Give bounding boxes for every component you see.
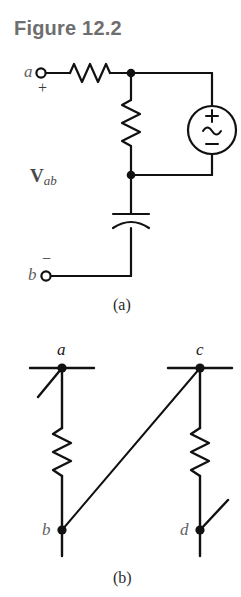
terminal-b-label: b	[28, 266, 37, 283]
terminal-a-label: a	[24, 63, 33, 80]
node-a-switch-arm	[38, 368, 62, 397]
wire-c-to-b	[62, 368, 200, 530]
terminal-b-polarity: −	[42, 251, 51, 267]
circuit-a-group	[36, 64, 236, 281]
shunt-resistor-symbol	[122, 100, 140, 146]
node-a-dot	[57, 363, 66, 372]
circuit-b-group	[30, 363, 232, 556]
node-b-label: b	[42, 521, 51, 538]
node-a-label: a	[57, 341, 66, 358]
voltage-label-vab: Vab	[30, 165, 57, 189]
node-c-label: c	[196, 341, 204, 358]
junction-dot-mid	[127, 171, 136, 180]
voltage-label-main: V	[30, 165, 44, 186]
node-b-dot	[57, 525, 66, 534]
resistor-cd-symbol	[191, 428, 209, 476]
series-resistor-symbol	[70, 64, 110, 82]
junction-dot-top	[127, 69, 136, 78]
figure-page: Figure 12.2	[0, 0, 241, 597]
node-d-dot	[195, 525, 204, 534]
node-d-switch-arm	[200, 500, 228, 530]
terminal-b-circle	[41, 271, 50, 280]
node-c-dot	[195, 363, 204, 372]
voltage-label-sub: ab	[44, 173, 57, 188]
resistor-ab-symbol	[53, 428, 71, 476]
caption-b: (b)	[113, 569, 132, 587]
caption-a: (a)	[113, 296, 131, 314]
terminal-a-polarity: +	[38, 80, 47, 96]
node-d-label: d	[180, 521, 189, 538]
terminal-a-circle	[36, 68, 45, 77]
